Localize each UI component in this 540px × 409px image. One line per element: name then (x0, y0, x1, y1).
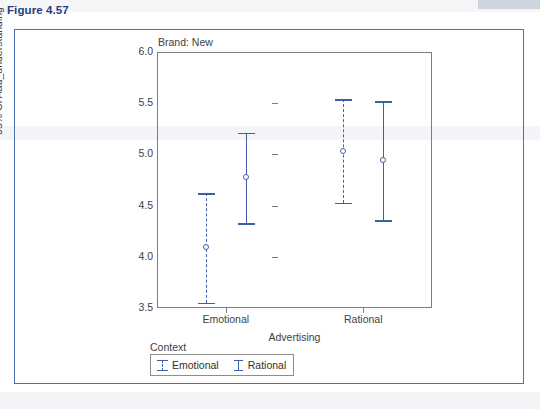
legend-item[interactable]: Rational (233, 359, 287, 372)
figure-caption: Figure 4.57 (7, 4, 69, 16)
y-axis-label: 95% CI Aad_understanding (0, 0, 4, 176)
legend: EmotionalRational (150, 354, 294, 376)
legend-item-label: Emotional (172, 359, 219, 371)
page-corner-band (478, 0, 540, 9)
figure-border (14, 29, 524, 384)
error-bar-icon (157, 359, 168, 372)
legend-title: Context (150, 341, 186, 353)
legend-item-label: Rational (248, 359, 287, 371)
legend-item[interactable]: Emotional (157, 359, 219, 372)
error-bar-icon (233, 359, 244, 372)
